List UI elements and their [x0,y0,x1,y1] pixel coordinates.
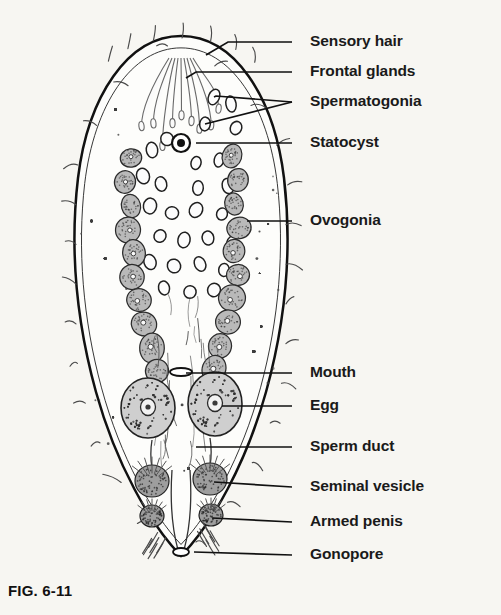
label-egg: Egg [310,396,339,413]
anatomy-diagram: Sensory hairFrontal glandsSpermatogoniaS… [0,0,501,615]
leader-armed-penis [212,518,292,522]
label-gonopore: Gonopore [310,545,384,562]
leader-gonopore [194,552,292,555]
label-sensory-hair: Sensory hair [310,32,403,49]
statocyst-marker [172,134,190,152]
mouth-opening [170,368,192,376]
figure-container: Sensory hairFrontal glandsSpermatogoniaS… [0,0,501,615]
label-frontal-glands: Frontal glands [310,62,415,79]
label-group: Sensory hairFrontal glandsSpermatogoniaS… [310,32,424,562]
figure-caption: FIG. 6-11 [8,582,72,599]
label-armed-penis: Armed penis [310,512,403,529]
label-seminal-vesicle: Seminal vesicle [310,477,424,494]
label-sperm-duct: Sperm duct [310,437,394,454]
label-statocyst: Statocyst [310,133,379,150]
label-ovogonia: Ovogonia [310,211,381,228]
label-mouth: Mouth [310,363,356,380]
label-spermatogonia: Spermatogonia [310,92,422,109]
gonopore-opening [173,548,189,556]
